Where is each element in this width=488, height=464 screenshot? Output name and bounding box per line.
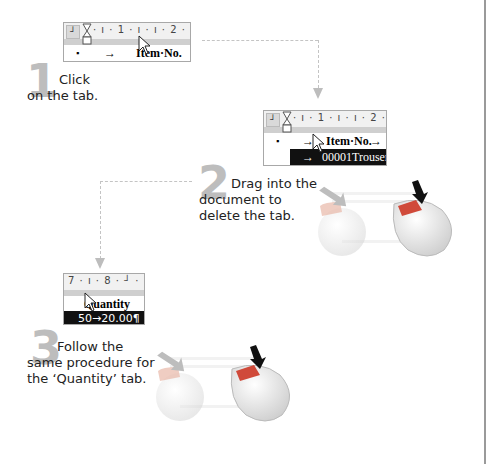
connector-line (100, 181, 192, 182)
ruler-ticks: · ı · 1 · ı · ı · 2 · ı · ı 3 (93, 24, 191, 35)
ruler-ticks: · ı · 1 · ı · ı · 2 · ı ┘3 · ı (293, 112, 387, 123)
selected-document-row: → 00001Trousers (290, 149, 386, 165)
selected-document-row: 50→20.00¶ (64, 311, 144, 325)
document-row: ▪ → Item·No. (64, 45, 190, 61)
document-row: Quantity (64, 296, 144, 312)
item-no-label: Item·No. (326, 134, 372, 149)
indent-marker[interactable] (82, 23, 91, 45)
ruler[interactable]: ┘ · ı · 1 · ı · ı · 2 · ı · ı 3 (64, 23, 190, 45)
ruler[interactable]: ┘ · ı · 1 · ı · ı · 2 · ı ┘3 · ı (264, 111, 386, 133)
item-value: 00001Trousers (322, 150, 387, 165)
step-3-text: Follow the same procedure for the ‘Quant… (27, 339, 155, 387)
ruler[interactable]: 7 · ı · 8 · ┘ · (64, 274, 144, 296)
bullet: ▪ (276, 136, 279, 146)
connector-line (318, 40, 319, 88)
mouse-pointer-icon (84, 292, 98, 312)
step-2-text: Drag into the document to delete the tab… (199, 176, 317, 224)
indent-marker[interactable] (282, 111, 291, 133)
connector-arrow-icon (313, 88, 323, 99)
tab-arrow: → (104, 46, 116, 61)
tab-arrow: → (370, 134, 382, 149)
mouse-drag-illustration (150, 345, 300, 425)
quantity-value: 50→20.00¶ (78, 312, 140, 325)
ruler-screenshot-step-1: ┘ · ı · 1 · ı · ı · 2 · ı · ı 3 ▪ → Item… (63, 22, 191, 62)
tab-selector-button[interactable]: ┘ (266, 113, 280, 127)
ruler-screenshot-step-3: 7 · ı · 8 · ┘ · Quantity 50→20.00¶ (63, 273, 145, 325)
tab-selector-button[interactable]: ┘ (66, 25, 80, 39)
connector-line (202, 40, 318, 41)
connector-arrow-icon (95, 258, 105, 269)
connector-line (100, 181, 101, 259)
bullet: ▪ (76, 48, 79, 58)
page-edge-rule (484, 0, 486, 464)
mouse-drag-illustration (312, 180, 462, 260)
mouse-pointer-icon (138, 35, 152, 55)
step-1-text: Click on the tab. (27, 72, 98, 104)
ruler-ticks: 7 · ı · 8 · ┘ · (68, 275, 140, 286)
mouse-pointer-icon (312, 133, 326, 153)
ruler-screenshot-step-2: ┘ · ı · 1 · ı · ı · 2 · ı ┘3 · ı ▪ → Ite… (263, 110, 387, 166)
